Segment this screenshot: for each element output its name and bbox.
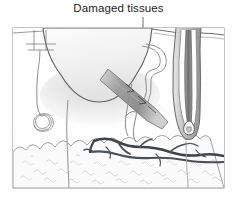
hair-follicle <box>173 28 201 140</box>
figure-root: Damaged tissues <box>0 0 237 204</box>
anatomy-illustration <box>0 0 237 204</box>
